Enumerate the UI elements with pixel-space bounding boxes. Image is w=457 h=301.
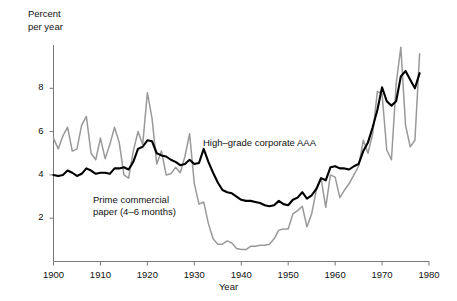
series-label-prime-commercial-paper: Prime commercialpaper (4–6 months) [93,194,176,218]
interest-rates-line-chart: Percentper year Year 2468 19001910192019… [0,0,457,301]
x-axis-title: Year [0,281,457,294]
x-tick-label-1930: 1930 [174,269,214,280]
y-tick-label-6: 6 [24,125,44,136]
x-tick-label-1940: 1940 [221,269,261,280]
x-tick-label-1920: 1920 [127,269,167,280]
x-tick-label-1980: 1980 [409,269,449,280]
y-tick-label-4: 4 [24,168,44,179]
y-axis-title-line1: Percent [28,8,61,19]
x-tick-label-1970: 1970 [362,269,402,280]
plot-area [0,0,457,301]
series-label-high-grade-corporate-aaa: High–grade corporate AAA [203,137,316,149]
y-tick-label-8: 8 [24,81,44,92]
y-axis-title: Percentper year [28,8,63,33]
x-tick-label-1950: 1950 [268,269,308,280]
y-axis-title-line2: per year [28,21,63,34]
axis-lines [54,45,430,262]
series-label-line1: Prime commercial [93,194,169,205]
x-tick-label-1910: 1910 [80,269,120,280]
x-tick-label-1900: 1900 [34,269,74,280]
series-label-line2: paper (4–6 months) [93,206,176,218]
x-tick-label-1960: 1960 [315,269,355,280]
y-tick-label-2: 2 [24,211,44,222]
tick-marks [50,88,430,265]
